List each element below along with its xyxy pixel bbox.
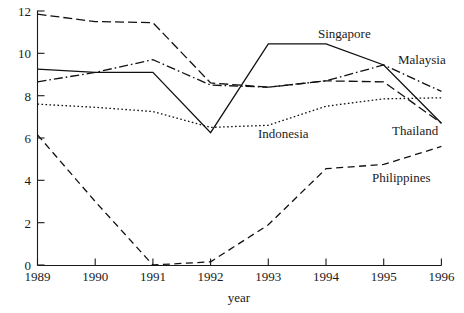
x-axis-tick-labels: 1989 1990 1991 1992 1993 1994 1995 1996	[25, 269, 455, 284]
x-tick-label-1993: 1993	[255, 269, 281, 284]
y-tick-label-2: 2	[25, 216, 32, 231]
x-tick-label-1995: 1995	[371, 269, 397, 284]
x-axis-title: year	[228, 290, 251, 305]
series-line-philippines	[38, 135, 442, 265]
series-label-thailand: Thailand	[392, 123, 439, 138]
x-axis-ticks	[38, 259, 442, 266]
y-tick-label-8: 8	[25, 89, 32, 104]
x-tick-label-1992: 1992	[198, 269, 224, 284]
x-tick-label-1989: 1989	[25, 269, 51, 284]
series-label-singapore: Singapore	[318, 26, 371, 41]
series-label-philippines: Philippines	[372, 170, 431, 185]
figure-caption-strip	[0, 305, 464, 313]
series-group	[38, 14, 442, 265]
x-tick-label-1994: 1994	[313, 269, 340, 284]
y-tick-label-12: 12	[18, 4, 31, 19]
y-tick-label-10: 10	[18, 46, 31, 61]
series-label-malaysia: Malaysia	[398, 52, 446, 67]
series-annotations: Singapore Malaysia Thailand Indonesia Ph…	[258, 26, 446, 185]
line-chart: 12 10 8 6 4 2 0 1989 1990 1991 1992 1993…	[0, 0, 464, 313]
x-tick-label-1990: 1990	[82, 269, 108, 284]
y-axis-tick-labels: 12 10 8 6 4 2 0	[18, 4, 32, 273]
chart-axes	[38, 11, 442, 266]
series-line-singapore	[38, 44, 442, 133]
series-line-indonesia	[38, 98, 442, 128]
y-tick-label-4: 4	[25, 173, 32, 188]
chart-figure: 12 10 8 6 4 2 0 1989 1990 1991 1992 1993…	[0, 0, 464, 313]
series-label-indonesia: Indonesia	[258, 126, 309, 141]
y-tick-label-6: 6	[25, 131, 32, 146]
x-tick-label-1996: 1996	[428, 269, 455, 284]
series-line-thailand	[38, 14, 442, 123]
x-tick-label-1991: 1991	[140, 269, 166, 284]
